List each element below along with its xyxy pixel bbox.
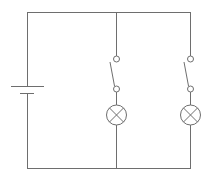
lamp-1-icon bbox=[107, 105, 127, 125]
switch-1-contact-top bbox=[114, 56, 120, 62]
switch-2-lever bbox=[184, 62, 189, 86]
circuit-diagram bbox=[0, 0, 210, 180]
switch-2-icon bbox=[184, 56, 194, 92]
switch-1-icon bbox=[110, 56, 120, 92]
switch-2-contact-bottom bbox=[188, 86, 194, 92]
switch-1-lever bbox=[110, 62, 115, 86]
battery-icon bbox=[11, 87, 44, 94]
wires bbox=[27, 12, 191, 169]
lamp-2-icon bbox=[181, 105, 201, 125]
switch-2-contact-top bbox=[188, 56, 194, 62]
switch-1-contact-bottom bbox=[114, 86, 120, 92]
